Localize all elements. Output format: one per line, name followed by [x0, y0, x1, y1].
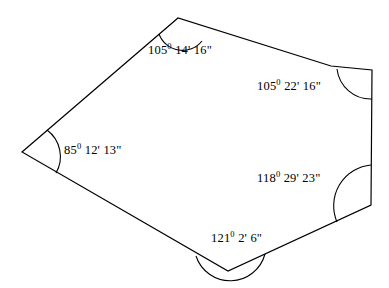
angle-left-degrees: 85: [64, 143, 77, 157]
angle-label-bottom: 1210 2' 6": [211, 232, 262, 245]
degree-symbol-icon: 0: [276, 77, 280, 87]
angle-upper-right-minutes: 22': [284, 79, 299, 93]
angle-label-upper-right: 1050 22' 16": [257, 80, 321, 93]
angle-label-lower-right: 1180 29' 23": [257, 172, 321, 185]
angle-lower-right-minutes: 29': [284, 171, 299, 185]
angle-top-seconds: 16": [194, 43, 212, 57]
angle-bottom-degrees: 121: [211, 231, 230, 245]
angle-label-top: 1050 14' 16": [148, 44, 212, 57]
angle-upper-right-seconds: 16": [303, 79, 321, 93]
angle-left-seconds: 13": [103, 143, 121, 157]
angle-top-degrees: 105: [148, 43, 167, 57]
geometry-figure: 1050 14' 16" 1050 22' 16" 850 12' 13" 11…: [0, 0, 389, 288]
angle-bottom-seconds: 6": [250, 231, 262, 245]
degree-symbol-icon: 0: [230, 229, 234, 239]
angle-left-minutes: 12': [85, 143, 100, 157]
degree-symbol-icon: 0: [77, 141, 81, 151]
degree-symbol-icon: 0: [167, 41, 171, 51]
degree-symbol-icon: 0: [276, 169, 280, 179]
angle-label-left: 850 12' 13": [64, 144, 122, 157]
angle-arc-left: [47, 130, 60, 173]
angle-arc-upper-right: [337, 69, 372, 99]
angle-top-minutes: 14': [175, 43, 190, 57]
angle-upper-right-degrees: 105: [257, 79, 276, 93]
angle-bottom-minutes: 2': [238, 231, 247, 245]
angle-lower-right-degrees: 118: [257, 171, 276, 185]
angle-lower-right-seconds: 23": [302, 171, 320, 185]
